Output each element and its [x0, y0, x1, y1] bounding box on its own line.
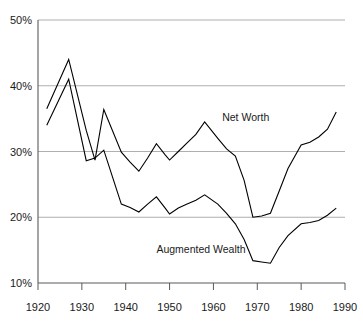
x-tick-label-1930: 1930: [70, 301, 94, 313]
y-tick-label-30: 30%: [10, 146, 32, 158]
series-line-augmented-wealth: [47, 79, 336, 263]
gridlines: [38, 20, 345, 217]
series-line-net-worth: [47, 59, 336, 217]
line-chart: 50%40%30%20%10% 192019301940195019601970…: [0, 0, 363, 323]
y-tick-label-50: 50%: [10, 14, 32, 26]
x-tick-label-1980: 1980: [289, 301, 313, 313]
x-tick-label-1990: 1990: [333, 301, 357, 313]
y-axis-tick-labels: 50%40%30%20%10%: [10, 14, 32, 289]
tick-marks: [38, 283, 345, 290]
x-tick-label-1970: 1970: [245, 301, 269, 313]
x-tick-label-1940: 1940: [113, 301, 137, 313]
x-tick-label-1960: 1960: [201, 301, 225, 313]
y-tick-label-10: 10%: [10, 277, 32, 289]
y-tick-label-40: 40%: [10, 80, 32, 92]
chart-container: 50%40%30%20%10% 192019301940195019601970…: [0, 0, 363, 323]
x-tick-label-1950: 1950: [157, 301, 181, 313]
series-label-net-worth: Net Worth: [222, 111, 269, 123]
series-label-augmented-wealth: Augmented Wealth: [156, 243, 245, 255]
x-axis-tick-labels: 19201930194019501960197019801990: [26, 301, 357, 313]
y-tick-label-20: 20%: [10, 211, 32, 223]
x-tick-label-1920: 1920: [26, 301, 50, 313]
data-series: [47, 59, 336, 263]
